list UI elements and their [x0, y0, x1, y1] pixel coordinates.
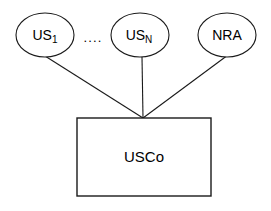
node-us1-label-base: US — [32, 27, 51, 43]
node-us1[interactable]: US1 — [16, 13, 74, 57]
edge-nra-to-usco — [143, 55, 228, 118]
node-nra[interactable]: NRA — [198, 13, 256, 57]
node-usco-label: USCo — [124, 148, 164, 165]
diagram-svg: US1 .... USN NRA USCo — [0, 0, 271, 211]
edge-us1-to-usco — [45, 56, 143, 118]
node-usco[interactable]: USCo — [77, 118, 211, 196]
ellipsis-separator: .... — [83, 30, 102, 45]
node-nra-label: NRA — [212, 27, 242, 43]
node-us1-label-subscript: 1 — [52, 34, 58, 45]
node-usn-label-subscript: N — [145, 34, 152, 45]
node-usn[interactable]: USN — [111, 13, 169, 57]
edge-usn-to-usco — [142, 57, 143, 118]
edge-group — [45, 55, 228, 118]
node-nra-label-base: NRA — [212, 27, 242, 43]
diagram-canvas: US1 .... USN NRA USCo — [0, 0, 271, 211]
node-usn-label-base: US — [126, 27, 145, 43]
